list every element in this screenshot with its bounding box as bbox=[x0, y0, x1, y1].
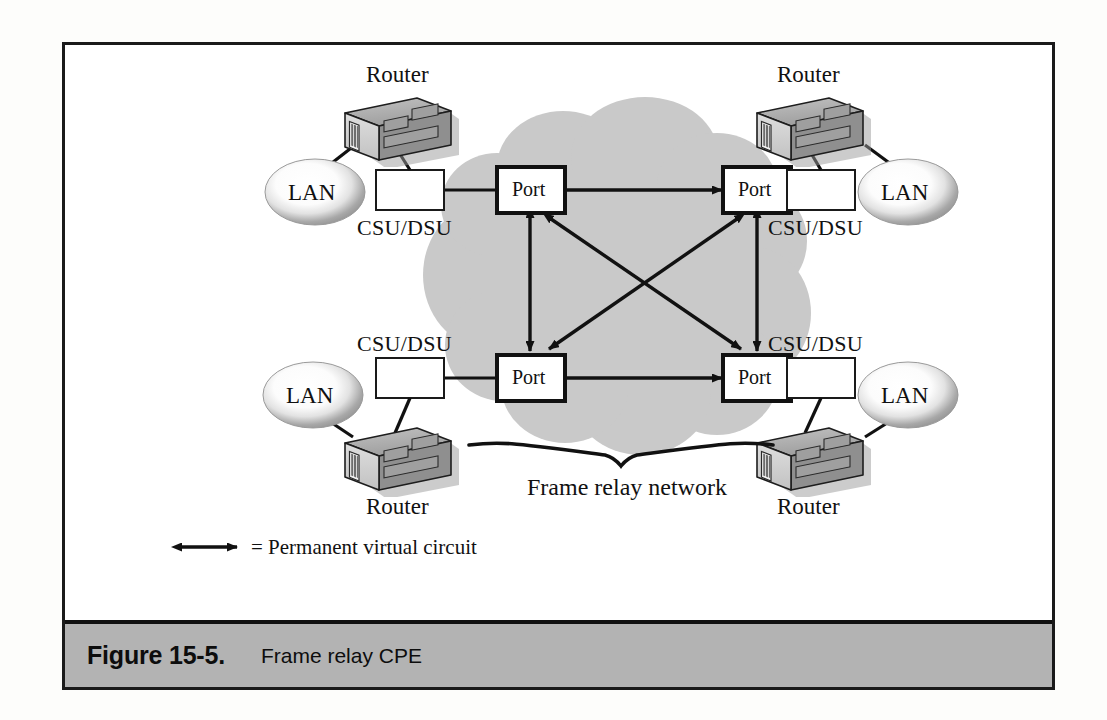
lan-label-bottom-right: LAN bbox=[881, 384, 928, 407]
lan-label-top-left: LAN bbox=[288, 181, 335, 204]
router-label-top-left: Router bbox=[366, 63, 429, 86]
link-router-csu-bottom-right bbox=[805, 398, 821, 433]
port-label-bottom-left: Port bbox=[512, 367, 545, 387]
diagram-canvas: Router CSU/DSU LAN Router CSU/DSU LAN CS… bbox=[65, 45, 1052, 620]
router-icon-top-left[interactable] bbox=[345, 98, 459, 169]
port-label-top-left: Port bbox=[512, 179, 545, 199]
csu-dsu-box-top-right[interactable] bbox=[787, 170, 855, 210]
csu-dsu-box-bottom-right[interactable] bbox=[787, 358, 855, 398]
port-label-bottom-right: Port bbox=[738, 367, 771, 387]
figure-frame: Router CSU/DSU LAN Router CSU/DSU LAN CS… bbox=[62, 42, 1055, 690]
csu-dsu-label-bottom-left: CSU/DSU bbox=[357, 333, 452, 355]
link-router-csu-bottom-left bbox=[395, 398, 410, 433]
figure-root: Router CSU/DSU LAN Router CSU/DSU LAN CS… bbox=[0, 0, 1107, 720]
router-label-bottom-right: Router bbox=[777, 495, 840, 518]
figure-title: Frame relay CPE bbox=[261, 644, 422, 668]
lan-label-top-right: LAN bbox=[881, 181, 928, 204]
router-label-bottom-left: Router bbox=[366, 495, 429, 518]
csu-dsu-label-bottom-right: CSU/DSU bbox=[768, 333, 863, 355]
router-icon-bottom-left[interactable] bbox=[345, 428, 459, 499]
router-icon-bottom-right[interactable] bbox=[757, 428, 871, 499]
port-label-top-right: Port bbox=[738, 179, 771, 199]
figure-number: Figure 15-5. bbox=[87, 641, 225, 670]
csu-dsu-label-top-right: CSU/DSU bbox=[768, 217, 863, 239]
frame-relay-network-label: Frame relay network bbox=[527, 475, 727, 499]
figure-caption-bar: Figure 15-5. Frame relay CPE bbox=[65, 620, 1052, 687]
legend-label: = Permanent virtual circuit bbox=[251, 537, 477, 558]
csu-dsu-label-top-left: CSU/DSU bbox=[357, 217, 452, 239]
lan-label-bottom-left: LAN bbox=[286, 384, 333, 407]
csu-dsu-box-bottom-left[interactable] bbox=[376, 358, 444, 398]
network-diagram bbox=[65, 45, 1052, 620]
router-icon-top-right[interactable] bbox=[757, 98, 871, 169]
csu-dsu-box-top-left[interactable] bbox=[376, 170, 444, 210]
router-label-top-right: Router bbox=[777, 63, 840, 86]
